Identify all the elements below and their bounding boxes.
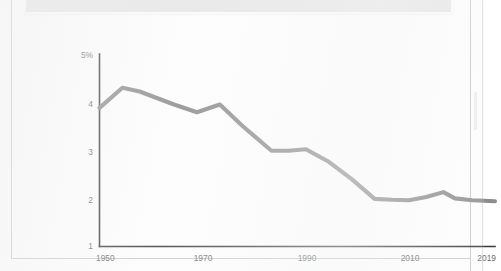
column-rule-left bbox=[11, 0, 12, 259]
x-tick-label-2019: 2019 bbox=[477, 253, 496, 263]
series-line-rate bbox=[100, 88, 496, 202]
y-tick-label-5: 5% bbox=[81, 50, 94, 60]
line-chart: 5% 4 3 2 1 1950 1970 1990 2010 2019 bbox=[40, 16, 501, 271]
y-tick-label-1: 1 bbox=[88, 241, 93, 251]
top-cropped-panel bbox=[24, 0, 453, 14]
x-tick-label-1950: 1950 bbox=[96, 253, 115, 263]
x-tick-label-1990: 1990 bbox=[298, 253, 317, 263]
y-tick-label-3: 3 bbox=[88, 147, 93, 157]
y-tick-label-2: 2 bbox=[88, 195, 93, 205]
x-tick-label-2010: 2010 bbox=[401, 253, 420, 263]
y-tick-label-4: 4 bbox=[88, 99, 93, 109]
chart-canvas: 5% 4 3 2 1 1950 1970 1990 2010 2019 bbox=[40, 16, 501, 271]
x-tick-label-1970: 1970 bbox=[194, 253, 213, 263]
